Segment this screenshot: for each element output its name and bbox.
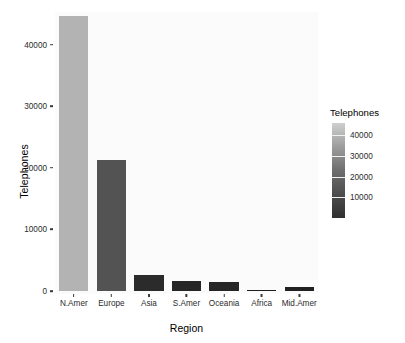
bar-europe xyxy=(97,160,126,291)
x-tick-mid-amer: Mid.Amer xyxy=(282,294,317,308)
x-tick-mark xyxy=(186,294,188,297)
bar-asia xyxy=(134,275,163,291)
legend-colorbar-body: 40000300002000010000 xyxy=(330,123,405,219)
x-tick-asia: Asia xyxy=(141,294,157,308)
x-tick-oceania: Oceania xyxy=(209,294,240,308)
x-tick-label: Europe xyxy=(98,299,124,308)
x-tick-label: Mid.Amer xyxy=(282,299,317,308)
x-tick-label: N.Amer xyxy=(60,299,88,308)
legend-tick-label: 10000 xyxy=(350,193,373,202)
x-tick-label: Africa xyxy=(251,299,272,308)
legend-tick-label: 40000 xyxy=(350,131,373,140)
y-tick-label: 10000 xyxy=(24,225,47,234)
y-tick-label: 30000 xyxy=(24,102,47,111)
x-tick-africa: Africa xyxy=(251,294,272,308)
x-tick-label: Asia xyxy=(141,299,157,308)
legend-colorbar xyxy=(332,123,345,218)
y-tick-mark xyxy=(50,106,53,108)
legend: Telephones 40000300002000010000 xyxy=(330,107,405,219)
x-tick-mark xyxy=(148,294,150,297)
bars-layer xyxy=(55,12,318,294)
bar-mid-amer xyxy=(285,287,314,291)
legend-tick-mark xyxy=(332,197,345,198)
plot-panel xyxy=(55,12,318,294)
x-tick-label: S.Amer xyxy=(173,299,200,308)
bar-chart: Telephones 010000200003000040000 N.AmerE… xyxy=(0,0,405,343)
x-tick-s-amer: S.Amer xyxy=(173,294,200,308)
y-tick-mark xyxy=(50,229,53,231)
bar-oceania xyxy=(209,282,238,291)
y-axis: 010000200003000040000 xyxy=(0,12,55,294)
x-tick-europe: Europe xyxy=(98,294,124,308)
y-tick-label: 0 xyxy=(42,287,47,296)
x-tick-mark xyxy=(73,294,75,297)
x-tick-mark xyxy=(111,294,113,297)
bar-africa xyxy=(247,290,276,291)
x-tick-n-amer: N.Amer xyxy=(60,294,88,308)
legend-tick-label: 30000 xyxy=(350,152,373,161)
x-axis-title: Region xyxy=(55,322,318,334)
y-tick-mark xyxy=(50,44,53,46)
x-tick-mark xyxy=(223,294,225,297)
legend-tick-mark xyxy=(332,135,345,136)
bar-s-amer xyxy=(172,281,201,291)
y-tick-mark xyxy=(50,290,53,292)
legend-tick-mark xyxy=(332,177,345,178)
y-tick-label: 40000 xyxy=(24,40,47,49)
bar-n-amer xyxy=(59,16,88,291)
legend-title: Telephones xyxy=(330,107,405,118)
x-tick-mark xyxy=(261,294,263,297)
y-tick-mark xyxy=(50,167,53,169)
x-tick-mark xyxy=(298,294,300,297)
x-tick-label: Oceania xyxy=(209,299,240,308)
legend-tick-mark xyxy=(332,156,345,157)
legend-tick-label: 20000 xyxy=(350,172,373,181)
x-axis: N.AmerEuropeAsiaS.AmerOceaniaAfricaMid.A… xyxy=(55,294,318,322)
y-tick-label: 20000 xyxy=(24,163,47,172)
